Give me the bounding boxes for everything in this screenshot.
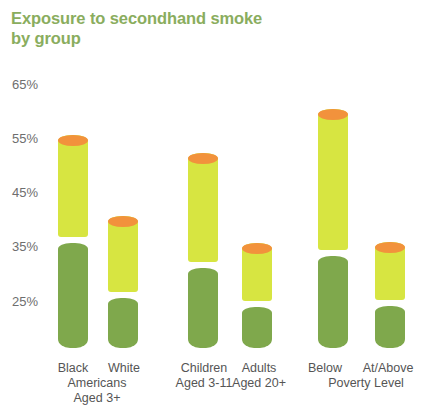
- bar-black-americans: [58, 135, 88, 348]
- bar-segment-body: [108, 216, 138, 292]
- bar-below-poverty: [318, 109, 348, 348]
- bar-segment-filter: [375, 306, 405, 348]
- bar-at-above-poverty: [375, 242, 405, 348]
- y-axis-tick-35: 35%: [12, 240, 54, 254]
- bar-stack: [242, 243, 272, 348]
- bar-segment-filter: [108, 298, 138, 348]
- bar-white-americans: [108, 216, 138, 348]
- y-axis-tick-25: 25%: [12, 295, 54, 309]
- y-axis-tick-55: 55%: [12, 132, 54, 146]
- y-axis-tick-45: 45%: [12, 186, 54, 200]
- bar-stack: [108, 216, 138, 348]
- bar-stack: [375, 242, 405, 348]
- bar-children-3-11: [188, 153, 218, 348]
- x-axis-label-white: White: [96, 361, 152, 376]
- bar-lit-tip-icon: [242, 243, 272, 254]
- bar-lit-tip-icon: [108, 216, 138, 227]
- x-axis-label-black: Black: [43, 361, 103, 376]
- bar-segment-filter: [188, 268, 218, 348]
- x-axis-label-at-above: At/Above: [350, 361, 426, 376]
- x-axis-label-below: Below: [301, 361, 349, 376]
- bar-stack: [58, 135, 88, 348]
- bar-segment-body: [188, 153, 218, 262]
- bar-stack: [188, 153, 218, 348]
- bar-segment-filter: [242, 307, 272, 348]
- bar-segment-body: [318, 109, 348, 250]
- bar-segment-filter: [318, 256, 348, 348]
- bar-stack: [318, 109, 348, 348]
- bar-adults-20-plus: [242, 243, 272, 348]
- bar-segment-filter: [58, 243, 88, 348]
- x-axis-group-label-americans: Americans Aged 3+: [45, 376, 149, 406]
- x-axis-group-label-poverty: Poverty Level: [311, 376, 421, 391]
- y-axis-tick-65: 65%: [12, 78, 54, 92]
- bar-lit-tip-icon: [188, 153, 218, 164]
- x-axis-label-adults: Adults Aged 20+: [220, 361, 298, 391]
- bar-segment-body: [58, 135, 88, 237]
- plot-area: 65% 55% 45% 35% 25%: [0, 0, 432, 360]
- secondhand-smoke-chart: Exposure to secondhand smoke by group 65…: [0, 0, 432, 412]
